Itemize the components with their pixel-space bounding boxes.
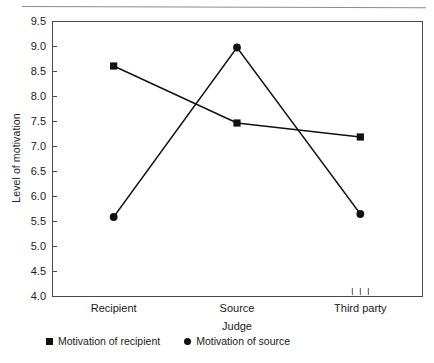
square-marker-icon (110, 62, 117, 69)
y-axis-tick-label: 4.5 (12, 265, 46, 277)
x-axis-title: Judge (222, 320, 252, 332)
x-axis-tick-label: Third party (334, 302, 387, 314)
legend-label: Motivation of recipient (58, 336, 160, 347)
chart-legend: Motivation of recipient Motivation of so… (46, 336, 290, 347)
y-axis-title: Level of motivation (10, 98, 22, 218)
x-axis-tick-label: Source (220, 302, 255, 314)
circle-marker-icon (110, 213, 118, 221)
circle-marker-icon (233, 44, 241, 52)
y-axis-tick-label: 9.0 (12, 40, 46, 52)
y-axis-tick-label: 8.5 (12, 65, 46, 77)
square-marker-icon (233, 119, 240, 126)
legend-item-motivation-of-recipient: Motivation of recipient (46, 336, 160, 347)
chart-figure: 9.59.08.58.07.57.06.56.05.55.04.54.0 Lev… (0, 0, 434, 363)
circle-marker-icon (184, 338, 191, 345)
legend-label: Motivation of source (196, 336, 290, 347)
legend-item-motivation-of-source: Motivation of source (184, 336, 290, 347)
x-axis-tick-label: Recipient (91, 302, 137, 314)
y-axis-tick-label: 5.0 (12, 240, 46, 252)
circle-marker-icon (356, 210, 364, 218)
y-axis-tick-label: 9.5 (12, 15, 46, 27)
square-marker-icon (46, 338, 53, 345)
square-marker-icon (357, 133, 364, 140)
y-axis-tick-label: 4.0 (12, 290, 46, 302)
plot-frame (53, 22, 423, 297)
